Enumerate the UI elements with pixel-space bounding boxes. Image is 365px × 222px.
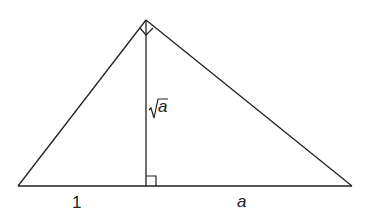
left-segment-label: 1 xyxy=(72,193,81,213)
triangle-diagram xyxy=(0,0,365,222)
right-leg xyxy=(146,20,352,186)
right-segment-label: a xyxy=(237,192,246,212)
altitude-radicand-label: a xyxy=(158,97,167,117)
foot-right-angle-marker xyxy=(146,176,156,186)
left-leg xyxy=(18,20,146,186)
